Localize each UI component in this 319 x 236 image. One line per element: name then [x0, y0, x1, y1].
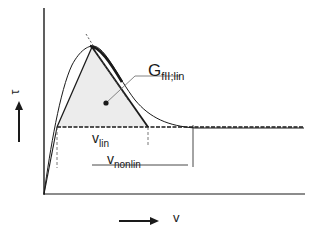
energy-label-sub: fII;lin	[161, 70, 184, 82]
g-leader-dot	[103, 100, 108, 105]
energy-label: GfII;lin	[148, 62, 184, 82]
v-nonlin-label: vnonlin	[107, 152, 141, 170]
energy-label-main: G	[148, 61, 161, 80]
tangent-extension	[86, 34, 94, 47]
v-lin-main: v	[92, 130, 99, 146]
v-lin-label: vlin	[92, 131, 109, 149]
energy-area	[57, 47, 148, 127]
diagram-canvas	[0, 0, 319, 236]
v-lin-sub: lin	[99, 138, 109, 149]
diagram-figure: GfII;lin vlin vnonlin τ v	[0, 0, 319, 236]
elastic-branch	[44, 127, 57, 194]
x-axis-label: v	[173, 211, 180, 224]
v-nonlin-main: v	[107, 151, 114, 167]
tau-arrow-icon	[15, 101, 23, 110]
y-axis-label: τ	[9, 90, 21, 95]
v-nonlin-sub: nonlin	[114, 159, 141, 170]
v-arrow-icon	[150, 217, 159, 225]
